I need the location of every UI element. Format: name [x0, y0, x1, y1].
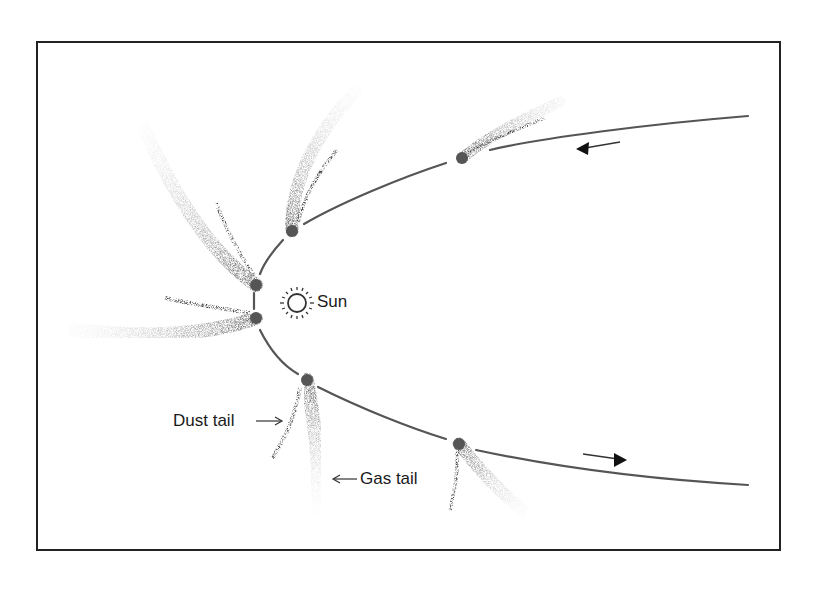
comet-6: [450, 438, 522, 510]
gas-tail-label: Gas tail: [360, 469, 418, 489]
comet-nucleus: [250, 279, 262, 291]
comet-nucleus: [456, 152, 468, 164]
comet-3: [145, 130, 262, 291]
outgoing-direction-arrow: [583, 453, 627, 467]
comet-nucleus: [286, 225, 298, 237]
comet-nucleus: [301, 374, 313, 386]
dust-tail-label: Dust tail: [173, 411, 234, 431]
comet-1: [456, 102, 560, 164]
gas-tail-pointer-arrow: [333, 475, 357, 483]
dust-tail: [272, 388, 300, 458]
dust-tail-pointer-arrow: [256, 417, 282, 425]
comet-nucleus: [250, 312, 262, 324]
comet-orbit-diagram: Sun Dust tail Gas tail: [0, 0, 814, 595]
comet-5: [272, 374, 318, 510]
sun-icon: [280, 287, 314, 319]
comet-4: [75, 298, 262, 334]
comet-nucleus: [453, 438, 465, 450]
incoming-direction-arrow: [576, 142, 620, 155]
sun-label: Sun: [317, 292, 347, 312]
